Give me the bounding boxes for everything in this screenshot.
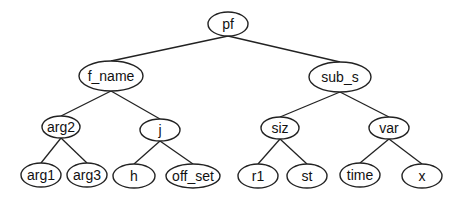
node-label: arg3 [73, 167, 101, 183]
node-label: h [130, 168, 138, 184]
edge-pf-sub_s [228, 36, 340, 62]
node-label: off_set [172, 168, 214, 184]
node-layer: pff_namesub_sarg2jsizvararg1arg3hoff_set… [21, 12, 442, 188]
node-var: var [369, 117, 409, 139]
node-r1: r1 [238, 164, 278, 188]
edge-var-x [389, 139, 422, 164]
tree-diagram: pff_namesub_sarg2jsizvararg1arg3hoff_set… [0, 0, 463, 198]
edge-f_name-arg2 [61, 91, 111, 116]
node-f_name: f_name [79, 61, 143, 91]
edge-sub_s-siz [280, 92, 340, 117]
node-label: arg1 [27, 167, 55, 183]
edge-arg2-arg3 [61, 138, 87, 163]
node-h: h [113, 164, 155, 188]
node-label: var [379, 120, 399, 136]
node-label: f_name [88, 68, 135, 84]
node-siz: siz [261, 117, 299, 139]
node-arg1: arg1 [21, 163, 61, 187]
node-label: r1 [252, 168, 265, 184]
edge-f_name-j [111, 91, 160, 119]
edge-arg2-arg1 [41, 138, 61, 163]
edge-sub_s-var [340, 92, 389, 117]
edge-j-off_set [160, 141, 193, 164]
node-sub_s: sub_s [309, 62, 371, 92]
node-time: time [340, 163, 380, 187]
edge-siz-st [280, 139, 307, 164]
edge-siz-r1 [258, 139, 280, 164]
node-off_set: off_set [166, 164, 220, 188]
node-j: j [140, 119, 180, 141]
node-label: x [419, 168, 426, 184]
node-label: st [302, 168, 313, 184]
edge-j-h [134, 141, 160, 164]
node-pf: pf [208, 12, 248, 36]
node-arg2: arg2 [42, 116, 80, 138]
node-label: time [347, 167, 374, 183]
node-label: siz [271, 120, 288, 136]
edge-var-time [360, 139, 389, 163]
edge-layer [41, 36, 422, 164]
node-label: sub_s [321, 69, 358, 85]
node-x: x [402, 164, 442, 188]
edge-pf-f_name [111, 36, 228, 61]
node-st: st [287, 164, 327, 188]
node-label: j [157, 122, 161, 138]
node-arg3: arg3 [67, 163, 107, 187]
node-label: arg2 [47, 119, 75, 135]
node-label: pf [222, 16, 234, 32]
